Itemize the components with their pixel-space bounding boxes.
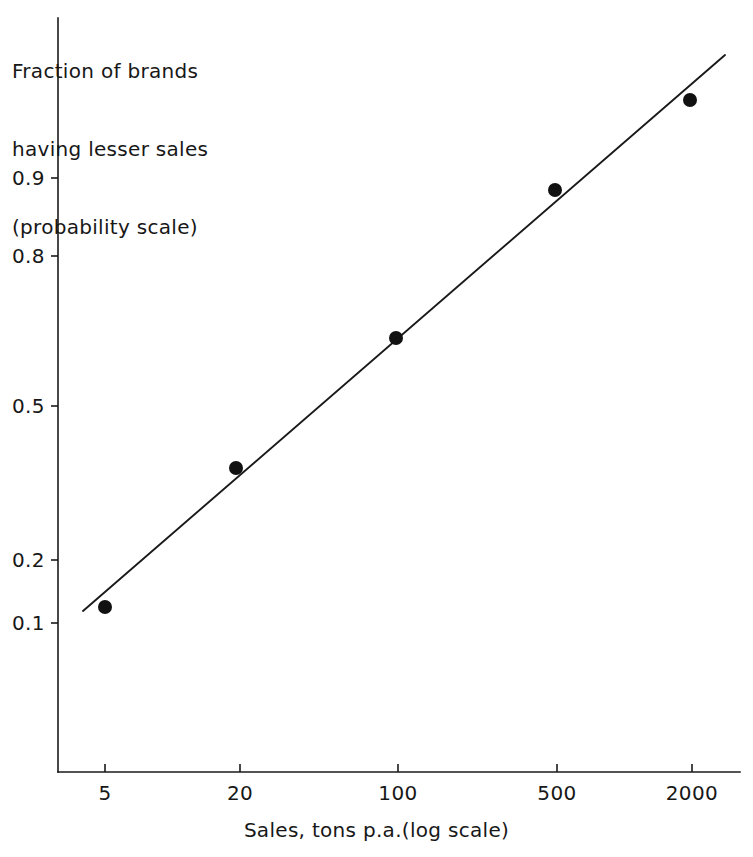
y-axis-tick-label: 0.8 [0, 244, 45, 268]
data-point-marker [98, 600, 112, 614]
x-axis-title: Sales, tons p.a.(log scale) [0, 818, 753, 842]
y-axis-tick-label: 0.5 [0, 394, 45, 418]
x-axis-tick-label: 2000 [666, 781, 719, 805]
y-axis-ticks [51, 178, 58, 623]
data-point-marker [229, 461, 243, 475]
x-axis-tick-label: 20 [227, 781, 253, 805]
fitted-line-segment [83, 55, 725, 611]
x-axis-tick-label: 500 [537, 781, 576, 805]
x-axis-tick-label: 5 [98, 781, 111, 805]
data-point-marker [683, 93, 697, 107]
chart-figure: Fraction of brands having lesser sales (… [0, 0, 753, 857]
x-axis-ticks [105, 764, 692, 772]
data-point-marker [548, 183, 562, 197]
plot-area [0, 0, 753, 857]
y-axis-tick-label: 0.1 [0, 611, 45, 635]
data-point-marker [389, 331, 403, 345]
fitted-line [83, 55, 725, 611]
y-axis-tick-label: 0.2 [0, 548, 45, 572]
x-axis-tick-label: 100 [378, 781, 417, 805]
y-axis-tick-label: 0.9 [0, 166, 45, 190]
data-point-markers [98, 93, 697, 614]
